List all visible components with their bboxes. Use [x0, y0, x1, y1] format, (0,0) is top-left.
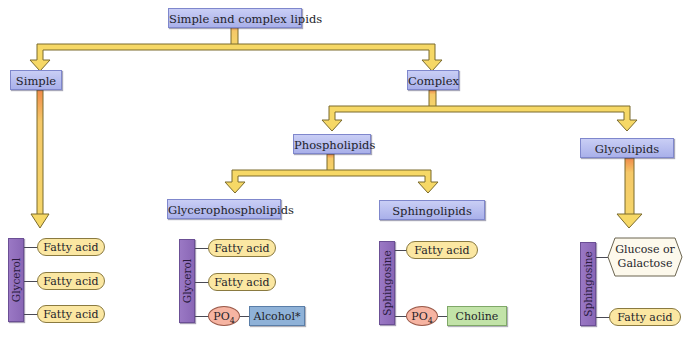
- bond-line: [195, 248, 209, 249]
- bond-line: [240, 316, 249, 317]
- node-simple: Simple: [10, 70, 62, 90]
- glycerol-backbone: Glycerol: [179, 239, 195, 323]
- fatty-acid: Fatty acid: [208, 273, 276, 291]
- bond-line: [596, 317, 610, 318]
- bond-line: [195, 282, 209, 283]
- phosphate-group: PO4: [208, 306, 240, 326]
- node-sphingolipids: Sphingolipids: [379, 200, 485, 220]
- fatty-acid: Fatty acid: [406, 241, 478, 259]
- fatty-acid: Fatty acid: [37, 238, 105, 256]
- node-glycerophospholipids: Glycerophospholipids: [167, 199, 281, 219]
- fatty-acid: Fatty acid: [37, 305, 105, 323]
- alcohol-head-group: Alcohol*: [249, 306, 305, 326]
- sphingosine-backbone: Sphingosine: [580, 242, 596, 326]
- phosphate-group: PO4: [406, 306, 438, 326]
- node-simple-and-complex-lipids: Simple and complex lipids: [168, 8, 302, 28]
- node-phospholipids: Phospholipids: [293, 134, 371, 154]
- choline-head-group: Choline: [447, 306, 507, 326]
- bond-line: [195, 316, 209, 317]
- bond-line: [24, 281, 38, 282]
- fatty-acid: Fatty acid: [609, 308, 681, 326]
- node-glycolipids: Glycolipids: [580, 138, 674, 158]
- fatty-acid: Fatty acid: [37, 272, 105, 290]
- node-complex: Complex: [407, 70, 459, 90]
- sugar-group: Glucose orGalactose: [607, 237, 683, 277]
- fatty-acid: Fatty acid: [208, 239, 276, 257]
- sphingosine-backbone: Sphingosine: [379, 241, 395, 325]
- bond-line: [24, 247, 38, 248]
- glycerol-backbone: Glycerol: [8, 238, 24, 322]
- bond-line: [24, 314, 38, 315]
